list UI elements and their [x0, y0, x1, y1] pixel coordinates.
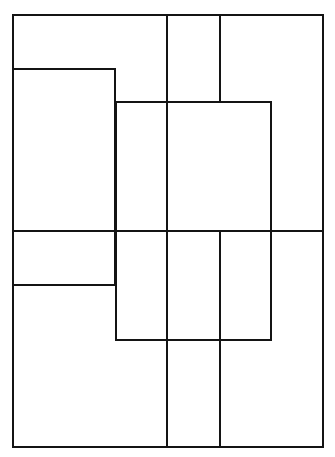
partition-diagram: [0, 0, 335, 457]
vertical-divider-2-top: [219, 14, 221, 101]
center-box: [115, 101, 272, 341]
vertical-divider-2-bottom: [219, 231, 221, 448]
horizontal-divider-middle: [12, 230, 324, 232]
left-upper-box: [12, 68, 116, 286]
